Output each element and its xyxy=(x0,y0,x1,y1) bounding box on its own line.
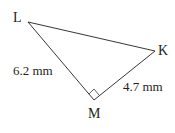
triangle-diagram: L K M 6.2 mm 4.7 mm xyxy=(0,0,175,133)
vertex-label-K: K xyxy=(158,43,168,58)
vertex-label-M: M xyxy=(88,106,101,121)
side-label-LM: 6.2 mm xyxy=(13,63,53,78)
side-label-MK: 4.7 mm xyxy=(123,79,163,94)
vertex-label-L: L xyxy=(13,10,22,25)
triangle-svg: L K M 6.2 mm 4.7 mm xyxy=(0,0,175,133)
right-angle-marker xyxy=(89,89,99,95)
